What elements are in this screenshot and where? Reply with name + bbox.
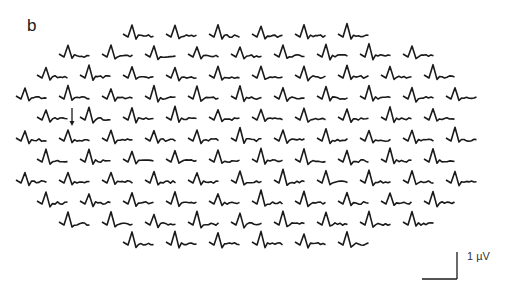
waveform-trace <box>295 66 326 81</box>
waveform-trace <box>403 46 434 59</box>
waveform-trace <box>338 65 369 79</box>
waveform-trace <box>381 148 412 163</box>
waveform-trace <box>102 130 133 143</box>
waveform-trace <box>188 47 219 59</box>
waveform-trace <box>403 171 434 185</box>
waveform-trace <box>209 233 240 248</box>
waveform-trace <box>295 108 326 122</box>
waveform-trace <box>295 149 326 165</box>
waveform-trace <box>446 88 477 101</box>
waveform-trace <box>317 171 348 185</box>
waveform-trace <box>274 169 305 185</box>
waveform-trace <box>188 86 219 101</box>
waveform-trace <box>424 149 455 163</box>
waveform-trace <box>209 150 240 163</box>
waveform-trace <box>102 173 133 185</box>
waveform-trace <box>424 109 455 121</box>
waveform-trace <box>102 212 133 227</box>
waveform-trace <box>209 110 240 122</box>
waveform-trace <box>403 88 434 102</box>
waveform-trace <box>145 172 176 185</box>
waveform-trace <box>188 130 219 143</box>
waveform-trace <box>123 232 154 248</box>
waveform-trace <box>123 193 154 206</box>
waveform-trace <box>274 45 305 58</box>
waveform-trace <box>80 65 111 80</box>
waveform-trace <box>252 109 283 121</box>
waveform-trace <box>295 25 326 39</box>
waveform-trace <box>59 45 90 58</box>
waveform-trace <box>274 88 305 101</box>
waveform-trace <box>360 130 391 142</box>
waveform-trace <box>166 231 197 248</box>
waveform-trace <box>37 192 68 207</box>
waveform-trace <box>446 127 477 142</box>
waveform-trace <box>59 173 90 185</box>
waveform-trace <box>231 47 262 59</box>
waveform-trace <box>381 107 412 123</box>
waveform-trace <box>231 128 262 144</box>
waveform-trace <box>59 85 90 100</box>
waveform-trace <box>338 23 369 38</box>
waveform-trace <box>209 25 240 39</box>
waveform-traces <box>16 23 477 247</box>
waveform-trace <box>16 173 47 186</box>
waveform-trace <box>317 212 348 226</box>
waveform-trace <box>252 148 283 164</box>
waveform-trace <box>145 85 176 101</box>
waveform-trace <box>188 211 219 227</box>
waveform-trace <box>16 88 47 101</box>
waveform-trace <box>145 46 176 60</box>
waveform-trace <box>338 150 369 164</box>
waveform-trace <box>59 212 90 227</box>
waveform-trace <box>231 86 262 102</box>
waveform-trace <box>80 107 111 123</box>
waveform-trace <box>381 66 412 79</box>
waveform-trace <box>80 194 111 207</box>
waveform-trace <box>188 173 219 185</box>
waveform-trace <box>360 44 391 60</box>
waveform-trace <box>446 171 477 185</box>
waveform-trace <box>381 193 412 205</box>
waveform-trace <box>252 190 283 206</box>
waveform-trace <box>166 192 197 207</box>
waveform-trace <box>80 149 111 164</box>
waveform-trace <box>166 106 197 122</box>
waveform-trace <box>123 108 154 123</box>
waveform-trace <box>403 212 434 226</box>
waveform-trace <box>16 131 47 144</box>
waveform-trace <box>37 68 68 80</box>
waveform-trace <box>252 66 283 79</box>
waveform-trace <box>145 131 176 143</box>
waveform-trace <box>166 151 197 164</box>
waveform-trace <box>338 232 369 247</box>
waveform-trace <box>37 110 68 122</box>
waveform-trace <box>295 191 326 206</box>
waveform-trace <box>37 149 68 164</box>
waveform-trace <box>338 109 369 122</box>
waveform-trace <box>317 44 348 59</box>
waveform-trace <box>166 68 197 81</box>
scale-bar-label: 1 µV <box>467 250 490 262</box>
waveform-trace <box>317 87 348 101</box>
waveform-trace <box>360 170 391 185</box>
waveform-trace <box>338 193 369 206</box>
waveform-trace <box>274 211 305 226</box>
waveform-trace <box>209 194 240 206</box>
waveform-trace <box>123 151 154 163</box>
scale-bar <box>422 252 457 279</box>
waveform-trace <box>231 213 262 228</box>
waveform-trace <box>317 129 348 144</box>
waveform-trace <box>145 214 176 227</box>
waveform-trace <box>424 65 455 80</box>
waveform-trace <box>123 67 154 79</box>
annotation-arrow-icon <box>70 108 75 126</box>
waveform-trace <box>360 211 391 227</box>
waveform-trace <box>166 25 197 38</box>
waveform-trace <box>102 89 133 101</box>
waveform-trace <box>403 130 434 143</box>
waveform-trace <box>424 191 455 206</box>
waveform-trace <box>59 130 90 143</box>
waveform-trace <box>274 130 305 143</box>
waveform-trace <box>209 66 240 80</box>
